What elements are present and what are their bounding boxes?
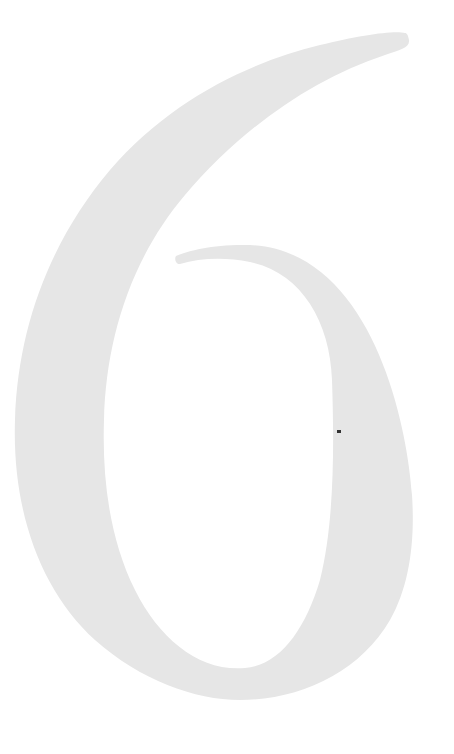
document-page: 6: [0, 0, 454, 754]
chapter-numeral-six: [0, 0, 454, 754]
scan-speck: [337, 430, 341, 433]
